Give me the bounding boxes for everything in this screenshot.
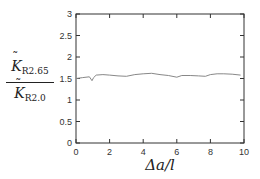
svg-text:2: 2	[107, 147, 112, 157]
svg-text:2: 2	[67, 52, 72, 62]
y-axis-label: KR2.65 KR2.0	[4, 58, 56, 107]
svg-text:8: 8	[208, 147, 213, 157]
svg-text:1: 1	[67, 95, 72, 105]
data-series	[76, 73, 241, 80]
axis-ticks	[76, 14, 244, 143]
y-label-numerator: KR2.65	[4, 58, 56, 80]
x-axis-label: Δa/l	[144, 156, 175, 174]
svg-text:0: 0	[67, 138, 72, 148]
svg-text:1.5: 1.5	[59, 74, 72, 84]
fraction-bar	[6, 82, 54, 83]
y-tick-labels: 00.511.522.53	[59, 9, 72, 148]
svg-text:10: 10	[239, 147, 249, 157]
svg-text:6: 6	[174, 147, 179, 157]
svg-text:3: 3	[67, 9, 72, 19]
y-label-denominator: KR2.0	[4, 85, 56, 107]
svg-text:0: 0	[73, 147, 78, 157]
plot-frame	[76, 14, 244, 143]
svg-text:0.5: 0.5	[59, 117, 72, 127]
svg-text:2.5: 2.5	[59, 31, 72, 41]
